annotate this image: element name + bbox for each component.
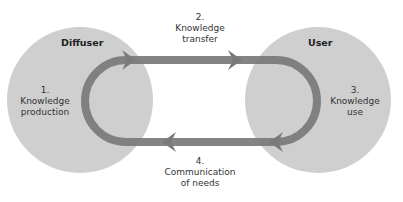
diffuser-step-label: 1. Knowledge production <box>20 85 70 118</box>
step-number: 1. <box>20 85 70 96</box>
diffuser-title: Diffuser <box>61 37 103 48</box>
step-line: Communication <box>155 167 245 178</box>
step-line: production <box>20 107 70 118</box>
step-line: transfer <box>160 34 240 45</box>
step-line: Knowledge <box>330 96 380 107</box>
step-line: use <box>330 107 380 118</box>
user-step-label: 3. Knowledge use <box>330 85 380 118</box>
user-title: User <box>308 37 333 48</box>
step-number: 3. <box>330 85 380 96</box>
needs-edge-label: 4. Communication of needs <box>155 156 245 189</box>
step-line: Knowledge <box>20 96 70 107</box>
step-line: Knowledge <box>160 23 240 34</box>
step-line: of needs <box>155 178 245 189</box>
transfer-edge-label: 2. Knowledge transfer <box>160 12 240 45</box>
step-number: 4. <box>155 156 245 167</box>
step-number: 2. <box>160 12 240 23</box>
